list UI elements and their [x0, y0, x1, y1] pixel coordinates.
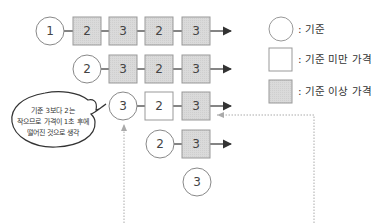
- svg-text:3: 3: [119, 62, 127, 76]
- svg-text:2: 2: [156, 137, 164, 151]
- speech-bubble: 기준 3보다 2는 작으므로 가격이 1초 후에 떨어진 것으로 생각: [12, 92, 106, 147]
- dotted-arrows: [124, 115, 314, 223]
- svg-text:: 기준 미만 가격: : 기준 미만 가격: [298, 53, 372, 65]
- svg-text:3: 3: [192, 62, 200, 76]
- svg-text:: 기준 이상 가격: : 기준 이상 가격: [298, 85, 372, 97]
- row-4: 2 3: [146, 130, 231, 158]
- svg-text:3: 3: [192, 99, 200, 113]
- legend: : 기준 : 기준 미만 가격 : 기준 이상 가격: [269, 17, 372, 103]
- svg-text:기준 3보다 2는: 기준 3보다 2는: [31, 106, 75, 115]
- svg-text:3: 3: [119, 99, 127, 113]
- svg-text:2: 2: [155, 99, 163, 113]
- svg-text:2: 2: [155, 24, 163, 38]
- svg-text:2: 2: [83, 62, 91, 76]
- svg-text:3: 3: [192, 24, 200, 38]
- svg-text:2: 2: [155, 62, 163, 76]
- dotted-left-arrow-icon: [217, 115, 314, 223]
- legend-circle-icon: [269, 17, 293, 41]
- row-2: 2 3 2 3: [73, 55, 231, 83]
- row-1: 1 2 3 2 3: [36, 17, 231, 45]
- svg-text:작으므로 가격이 1초 후에: 작으므로 가격이 1초 후에: [17, 117, 88, 126]
- row-5: 3: [183, 168, 211, 196]
- svg-text:3: 3: [119, 24, 127, 38]
- row-3: 3 2 3: [109, 92, 231, 120]
- svg-text:1: 1: [46, 24, 54, 38]
- svg-text:: 기준: : 기준: [298, 23, 325, 35]
- legend-gray-box-icon: [269, 80, 292, 103]
- svg-text:3: 3: [192, 137, 200, 151]
- svg-text:2: 2: [83, 24, 91, 38]
- legend-white-box-icon: [269, 48, 292, 71]
- svg-text:떨어진 것으로 생각: 떨어진 것으로 생각: [27, 128, 80, 137]
- svg-text:3: 3: [193, 175, 201, 189]
- stock-price-diagram: 1 2 3 2 3 2 3 2 3 3 2 3: [0, 0, 372, 223]
